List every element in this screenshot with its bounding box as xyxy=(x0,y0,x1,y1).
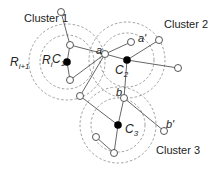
node xyxy=(175,65,182,72)
cluster-head-c2 xyxy=(123,56,131,64)
a-prime-label: a' xyxy=(138,32,147,44)
cluster1-label: Cluster 1 xyxy=(24,12,68,24)
b-label: b xyxy=(116,86,122,98)
member-nodes xyxy=(58,9,182,157)
node xyxy=(67,77,74,84)
node xyxy=(156,37,163,44)
node xyxy=(67,42,74,49)
node-a xyxy=(102,51,109,58)
c1-label: C1 xyxy=(52,52,65,68)
c3-label: C3 xyxy=(125,122,139,138)
node xyxy=(111,150,118,157)
cluster-head-c3 xyxy=(114,121,122,129)
node-a-prime xyxy=(128,39,135,46)
cluster2-label: Cluster 2 xyxy=(164,18,208,30)
diagram-canvas: Cluster 1 Cluster 2 Cluster 3 Ri+1 Ri C1… xyxy=(0,0,213,177)
cluster-diagram: Cluster 1 Cluster 2 Cluster 3 Ri+1 Ri C1… xyxy=(0,0,213,177)
radius-outer-label: Ri+1 xyxy=(10,55,30,71)
b-prime-label: b' xyxy=(166,118,175,130)
a-label: a xyxy=(96,44,102,56)
node xyxy=(77,93,84,100)
node xyxy=(93,134,100,141)
cluster3-label: Cluster 3 xyxy=(156,144,200,156)
